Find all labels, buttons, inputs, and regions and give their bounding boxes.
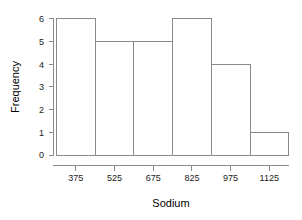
histogram-bar <box>211 64 250 155</box>
x-axis-ticks <box>76 166 269 171</box>
histogram-bar <box>134 41 173 155</box>
x-tick-label: 525 <box>107 173 122 183</box>
y-tick-label: 3 <box>39 82 44 92</box>
histogram-bar <box>173 19 212 156</box>
x-tick-label: 375 <box>68 173 83 183</box>
x-axis-tick-labels: 375 525 675 825 975 1125 <box>68 173 279 183</box>
histogram-figure: 0 1 2 3 4 5 6 375 525 675 825 975 1125 <box>0 0 302 220</box>
y-tick-label: 0 <box>39 150 44 160</box>
y-axis-title: Frequency <box>9 61 21 113</box>
y-axis-tick-labels: 0 1 2 3 4 5 6 <box>39 14 44 161</box>
y-tick-label: 2 <box>39 105 44 115</box>
histogram-chart: 0 1 2 3 4 5 6 375 525 675 825 975 1125 <box>0 0 302 220</box>
x-tick-label: 1125 <box>260 173 279 183</box>
x-tick-label: 675 <box>146 173 161 183</box>
histogram-bar <box>95 41 134 155</box>
histogram-bar <box>57 19 96 156</box>
y-tick-label: 4 <box>39 60 44 70</box>
x-axis-title: Sodium <box>152 197 189 209</box>
y-axis-ticks <box>49 19 54 156</box>
bars-group <box>57 19 289 156</box>
x-tick-label: 975 <box>223 173 238 183</box>
y-tick-label: 5 <box>39 37 44 47</box>
histogram-bar <box>250 132 289 155</box>
y-tick-label: 6 <box>39 14 44 24</box>
x-tick-label: 825 <box>184 173 199 183</box>
y-tick-label: 1 <box>39 128 44 138</box>
